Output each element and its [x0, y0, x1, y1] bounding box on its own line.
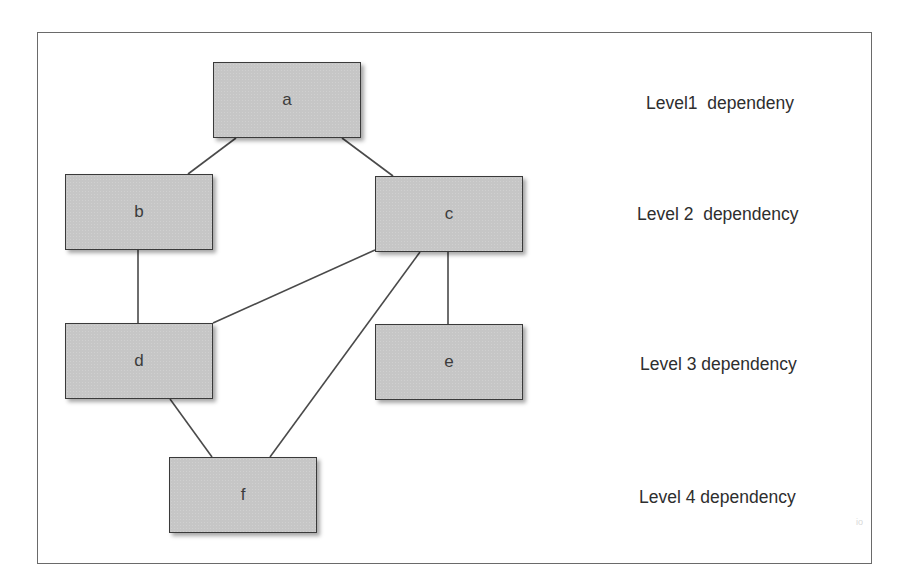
node-d: d — [65, 323, 213, 399]
edge-a-c — [342, 138, 393, 176]
node-a: a — [213, 62, 361, 138]
edge-d-f — [170, 399, 212, 457]
node-f: f — [169, 457, 317, 533]
node-f-label: f — [241, 485, 246, 505]
node-a-label: a — [282, 90, 291, 110]
level-2-label: Level 2 dependency — [637, 204, 799, 225]
node-e: e — [375, 324, 523, 400]
level-1-label: Level1 dependeny — [646, 93, 794, 114]
node-e-label: e — [444, 352, 453, 372]
node-b-label: b — [134, 202, 143, 222]
level-4-label: Level 4 dependency — [639, 487, 796, 508]
node-c-label: c — [445, 204, 454, 224]
edge-a-b — [188, 138, 236, 174]
level-3-label: Level 3 dependency — [640, 354, 797, 375]
watermark: io — [856, 517, 863, 527]
node-d-label: d — [134, 351, 143, 371]
edge-c-d — [213, 250, 375, 323]
node-c: c — [375, 176, 523, 252]
node-b: b — [65, 174, 213, 250]
